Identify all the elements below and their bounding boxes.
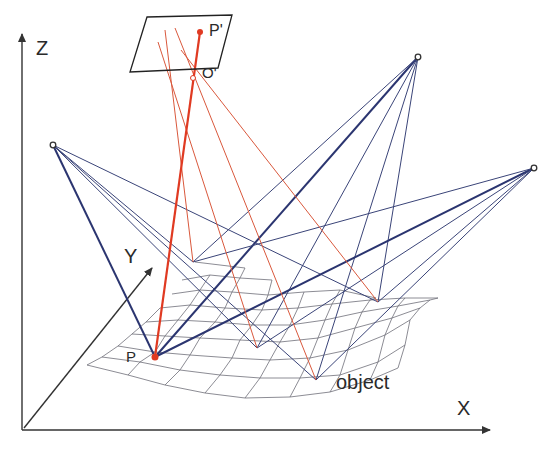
projection-center-o-prime [191,76,196,81]
z-axis-label: Z [36,38,48,58]
image-point-p-prime [197,29,203,35]
axes [22,34,490,430]
projection-rays [155,28,378,380]
object-label: object [336,372,389,392]
camera-rays [53,57,534,380]
object-point-p [152,354,159,361]
camera-left-icon [50,142,56,148]
x-axis-label: X [457,398,470,418]
y-axis-label: Y [124,246,137,266]
camera-right-icon [531,165,537,171]
diagram-canvas [0,0,557,453]
projection-center-label: O' [202,65,217,80]
image-point-label: P' [209,23,223,39]
object-point-label: P [126,349,136,364]
camera-top-right-icon [415,54,421,60]
